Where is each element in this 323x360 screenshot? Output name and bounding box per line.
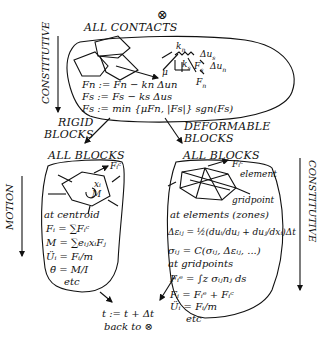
rigid-branch-label-1: RIGID xyxy=(58,117,94,128)
start-symbol: ⊗ xyxy=(157,8,168,21)
delta-un-label: Δun xyxy=(210,62,226,73)
contacts-title: ALL CONTACTS xyxy=(84,22,177,33)
rigid-eq-force: Fᵢ = ∑Fᵢᶜ xyxy=(46,224,89,234)
deformable-contact-force-label: Fᵢᶜ xyxy=(232,160,243,169)
rigid-branch-label-2: BLOCKS xyxy=(44,129,94,140)
gridpoint-accel-eq: Üᵢ = Fᵢ/m xyxy=(170,302,217,312)
rigid-block-icon xyxy=(48,166,120,214)
moment-label: M xyxy=(92,190,101,199)
deformable-section-elements: at elements (zones) xyxy=(170,210,269,220)
rigid-eq-rotation: θ̈ = M/I xyxy=(50,265,88,275)
deformable-etc: etc xyxy=(186,314,202,324)
rigid-title: ALL BLOCKS xyxy=(48,150,125,161)
contact-eq-shear: Fs := Fs − ks Δus xyxy=(82,92,172,102)
friction-mu-label: μ xyxy=(162,68,168,77)
motion-label: MOTION xyxy=(4,184,15,230)
deformable-section-gridpoints: at gridpoints xyxy=(168,259,233,269)
deformable-title: ALL BLOCKS xyxy=(183,150,260,161)
force-fn-label: Fn xyxy=(196,78,206,89)
deformable-branch-label-1: DEFORMABLE xyxy=(184,121,270,132)
rigid-eq-accel: Üᵢ = Fᵢ/m xyxy=(46,252,93,262)
element-label: element xyxy=(240,170,277,179)
timestep-loop-back: back to ⊗ xyxy=(104,322,153,332)
dem-cycle-diagram: ⊗ ALL CONTACTS kn ks μ Δus Δun Fs Fn Fn … xyxy=(0,0,323,360)
contact-eq-friction: Fs := min {μFn, |Fs|} sgn(Fs) xyxy=(82,104,233,114)
rigid-etc: etc xyxy=(64,277,80,287)
strain-increment-eq: Δεᵢⱼ = ½(duᵢ/duⱼ + duⱼ/dxᵢ)Δt xyxy=(168,228,296,237)
rigid-contact-force-label: Fᵢᶜ xyxy=(110,162,121,171)
constitutive-label-top: CONSTITUTIVE xyxy=(40,22,51,104)
spring-ks-label: ks xyxy=(182,60,191,71)
gridpoint-label: gridpoint xyxy=(232,196,274,205)
constitutive-label-right: CONSTITUTIVE xyxy=(307,160,318,242)
spring-kn-label: kn xyxy=(176,42,186,53)
contact-blocks-icon xyxy=(74,36,138,80)
stress-eq: σᵢⱼ = C(σᵢⱼ, Δεᵢⱼ, ...) xyxy=(168,246,261,256)
gridpoint-total-force-eq: Fᵢ = Fᵢᵉ + Fᵢᶜ xyxy=(170,290,234,300)
contact-eq-normal: Fn := Fn − kn Δun xyxy=(82,80,177,90)
deformable-branch-label-2: BLOCKS xyxy=(184,133,234,144)
centroid-x-label: xᵢ xyxy=(94,180,101,189)
gridpoint-force-integral-eq: Fᵢᵉ = ∫z σᵢⱼnⱼ ds xyxy=(170,274,247,284)
timestep-update: t := t + Δt xyxy=(102,309,154,319)
delta-us-label: Δus xyxy=(200,50,216,61)
rigid-section-label: at centroid xyxy=(44,210,100,220)
force-fs-label: Fs xyxy=(194,62,203,73)
rigid-eq-moment: M = ∑eᵢⱼxᵢFⱼ xyxy=(46,238,106,248)
